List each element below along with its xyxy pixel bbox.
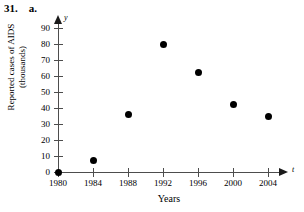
- data-point: [55, 169, 62, 176]
- x-axis-tick-label: 2000: [213, 178, 253, 188]
- y-axis-tick-label-wrap: 10: [30, 152, 50, 161]
- y-axis-tick-label-wrap: 20: [30, 136, 50, 145]
- x-axis-tick-label: 1996: [178, 178, 218, 188]
- data-point: [125, 111, 132, 118]
- y-axis-tick: [54, 156, 63, 157]
- y-axis-variable-label: y: [64, 13, 68, 22]
- y-axis-tick: [54, 76, 63, 77]
- x-axis-line: [58, 172, 280, 173]
- data-point: [160, 41, 167, 48]
- x-axis-tick: [93, 168, 94, 177]
- x-axis-arrow-icon: [279, 168, 288, 176]
- x-axis-tick-label: 1988: [108, 178, 148, 188]
- y-axis-tick: [54, 28, 63, 29]
- x-axis-tick-label: 1984: [73, 178, 113, 188]
- data-point: [195, 69, 202, 76]
- y-axis-tick-label-wrap: 60: [30, 72, 50, 81]
- data-point: [90, 157, 97, 164]
- y-axis-tick-label: 60: [30, 72, 50, 81]
- x-axis-tick: [128, 168, 129, 177]
- y-axis-tick: [54, 108, 63, 109]
- x-axis-tick-label: 1980: [38, 178, 78, 188]
- y-axis-tick-label: 30: [30, 120, 50, 129]
- x-axis-tick-label: 2004: [248, 178, 288, 188]
- y-axis-tick: [54, 44, 63, 45]
- y-axis-tick-label-wrap: 70: [30, 56, 50, 65]
- y-axis-tick: [54, 92, 63, 93]
- x-axis-tick: [198, 168, 199, 177]
- y-axis-tick-label-wrap: 40: [30, 104, 50, 113]
- y-axis-tick-label-wrap: 90: [30, 24, 50, 33]
- y-axis-arrow-icon: [54, 15, 62, 24]
- x-axis-title: Years: [58, 193, 280, 204]
- x-axis-tick-label: 1992: [143, 178, 183, 188]
- x-axis-variable-label: t: [292, 165, 294, 174]
- y-axis-title: Reported cases of AIDS (thousands): [6, 0, 28, 142]
- y-axis-tick: [54, 124, 63, 125]
- y-axis-tick-label-wrap: 50: [30, 88, 50, 97]
- y-axis-tick: [54, 140, 63, 141]
- y-axis-tick-label: 0: [30, 168, 50, 177]
- y-axis-tick-label: 20: [30, 136, 50, 145]
- y-axis-tick-label-wrap: 80: [30, 40, 50, 49]
- x-axis-tick: [233, 168, 234, 177]
- y-axis-tick-label: 70: [30, 56, 50, 65]
- y-axis-tick-label: 80: [30, 40, 50, 49]
- x-axis-tick: [268, 168, 269, 177]
- y-axis-tick-label-wrap: 0: [30, 168, 50, 177]
- y-axis-tick-label: 50: [30, 88, 50, 97]
- y-axis-tick-label: 40: [30, 104, 50, 113]
- y-axis-title-line1: Reported cases of AIDS: [6, 24, 16, 111]
- data-point: [230, 101, 237, 108]
- data-point: [265, 113, 272, 120]
- y-axis-tick-label: 90: [30, 24, 50, 33]
- y-axis-tick-label: 10: [30, 152, 50, 161]
- y-axis-tick-label-wrap: 30: [30, 120, 50, 129]
- y-axis-tick: [54, 60, 63, 61]
- y-axis-title-line2: (thousands): [17, 0, 28, 142]
- scatter-plot-figure: y t 0102030405060708090 1980198419881992…: [0, 0, 304, 212]
- x-axis-tick: [163, 168, 164, 177]
